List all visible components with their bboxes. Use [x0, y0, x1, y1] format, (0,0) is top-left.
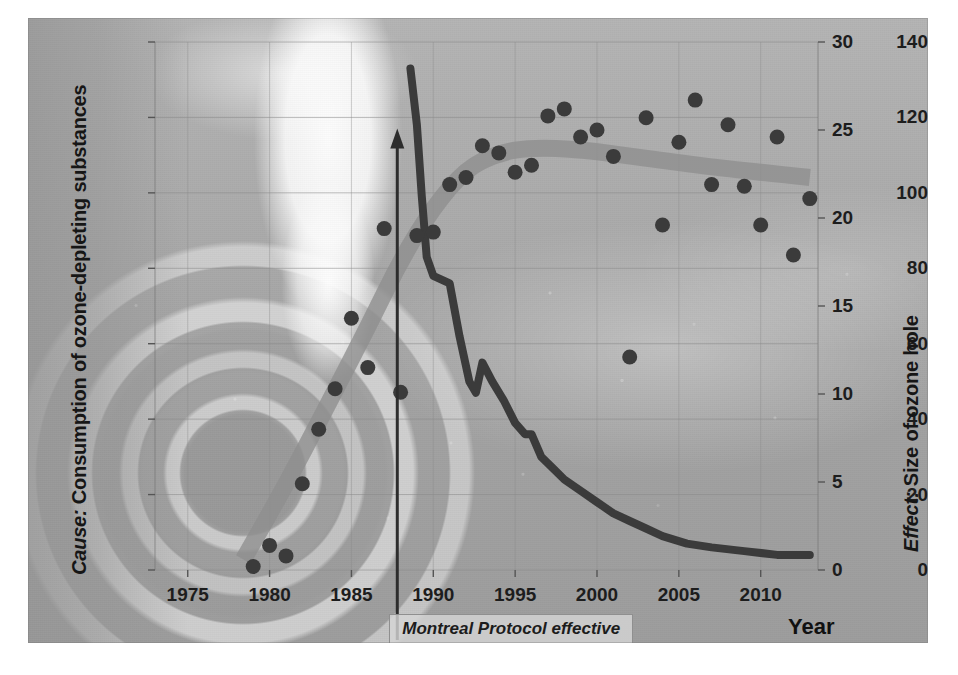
right-axis-tick-label: 20: [832, 207, 853, 229]
left-axis-lead: Cause:: [68, 510, 90, 576]
x-axis-tick-label: 1995: [494, 584, 536, 606]
right-axis-tick-label: 5: [832, 471, 843, 493]
x-axis-tick-label: 1980: [248, 584, 290, 606]
right-axis-tick-label: 30: [832, 31, 853, 53]
right-axis-title: Effect: Size of ozone hole: [900, 24, 923, 552]
x-axis-tick-label: 1975: [167, 584, 209, 606]
x-axis-tick-label: 2000: [576, 584, 618, 606]
right-axis-lead: Effect:: [900, 492, 922, 552]
x-axis-tick-label: 1985: [330, 584, 372, 606]
left-axis-label: Consumption of ozone-depleting substance…: [68, 85, 90, 505]
x-axis-tick-label: 2010: [740, 584, 782, 606]
left-axis-title: Cause: Consumption of ozone-depleting su…: [68, 37, 91, 575]
chart-figure: 020406080100120140 051015202530 19751980…: [28, 18, 928, 643]
plot-area: 020406080100120140 051015202530 19751980…: [28, 18, 928, 643]
right-axis-tick-label: 25: [832, 119, 853, 141]
right-axis-tick-label: 15: [832, 295, 853, 317]
right-axis-tick-label: 0: [832, 559, 843, 581]
annotation-arrow-layer: [28, 18, 928, 643]
x-axis-title: Year: [788, 614, 835, 640]
x-axis-tick-label: 1990: [412, 584, 454, 606]
chart-screenshot: 020406080100120140 051015202530 19751980…: [0, 0, 958, 675]
right-axis-tick-label: 10: [832, 383, 853, 405]
right-axis-label: Size of ozone hole: [900, 315, 922, 486]
x-axis-tick-label: 2005: [658, 584, 700, 606]
montreal-protocol-annotation-label: Montreal Protocol effective: [389, 614, 633, 643]
